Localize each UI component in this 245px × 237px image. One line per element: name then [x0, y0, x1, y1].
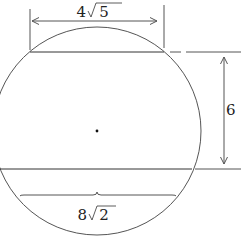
distance-label: 6: [226, 101, 236, 119]
top-chord-label: 4 5: [76, 3, 122, 21]
svg-text:5: 5: [99, 3, 109, 21]
center-dot: [96, 130, 99, 133]
bottom-brace: [20, 192, 176, 196]
circle-chords-diagram: 4 5 6 8 2: [0, 0, 245, 237]
svg-text:2: 2: [99, 206, 109, 224]
svg-text:8: 8: [77, 206, 87, 224]
svg-text:4: 4: [76, 3, 86, 21]
circle: [0, 27, 201, 235]
bottom-chord-label: 8 2: [77, 206, 116, 224]
